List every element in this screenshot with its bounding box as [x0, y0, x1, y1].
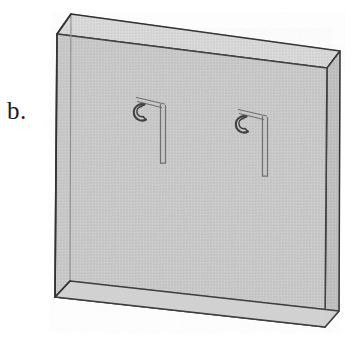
panel-drawing: [0, 0, 363, 353]
figure-container: b.: [0, 0, 363, 353]
panel-front-face: [55, 34, 327, 327]
